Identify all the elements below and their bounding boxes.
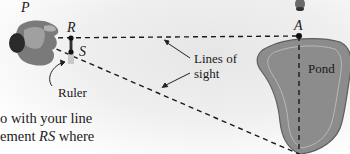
ruler-icon — [68, 35, 74, 64]
diagram-canvas: P R S A Lines of sight Ruler Pond o with… — [0, 0, 350, 154]
pond-shape — [257, 39, 350, 154]
label-a: A — [294, 18, 303, 34]
body-text-line-1-content: o with your line — [0, 110, 92, 126]
body-text-line-2-suffix: where — [55, 128, 94, 144]
label-lines-of-sight-line2: sight — [194, 67, 219, 81]
label-s: S — [79, 44, 86, 60]
body-text-line-2: ement RS where — [0, 128, 94, 145]
label-ruler: Ruler — [58, 86, 87, 100]
person-icon — [9, 21, 58, 66]
label-pond: Pond — [308, 62, 335, 76]
label-r: R — [67, 20, 76, 36]
lines-of-sight-pointer-arrows — [162, 40, 190, 88]
body-text-line-2-prefix: ement — [0, 128, 39, 144]
ruler-pointer-arrow — [50, 60, 65, 86]
label-lines-of-sight-line1: Lines of — [194, 52, 237, 66]
body-text-line-1: o with your line — [0, 110, 92, 127]
body-text-line-2-segment-rs: RS — [39, 128, 55, 144]
label-p: P — [21, 0, 30, 16]
distant-observer-icon — [295, 0, 305, 11]
